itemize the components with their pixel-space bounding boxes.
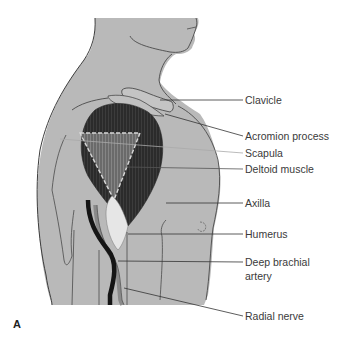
label-axilla: Axilla xyxy=(245,197,270,210)
label-radial-nerve: Radial nerve xyxy=(245,310,304,323)
label-deep-brachial-artery-line2: artery xyxy=(245,270,272,283)
label-humerus: Humerus xyxy=(245,228,288,241)
label-acromion-process: Acromion process xyxy=(245,130,329,143)
label-deltoid-muscle: Deltoid muscle xyxy=(245,163,314,176)
label-clavicle: Clavicle xyxy=(245,94,282,107)
label-deep-brachial-artery-line1: Deep brachial xyxy=(245,256,310,269)
label-scapula: Scapula xyxy=(245,147,283,160)
shoulder-anatomy-diagram: Clavicle Acromion process Scapula Deltoi… xyxy=(0,0,350,344)
panel-letter: A xyxy=(13,318,21,330)
